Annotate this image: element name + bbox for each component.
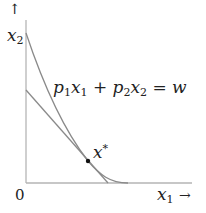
x-axis-label: x1 → [157,186,191,205]
optimum-label: x* [93,143,108,161]
budget-equation-label: p1x1 + p2x2 = w [53,79,187,98]
y-axis-arrow: ↑ [9,2,21,16]
y-axis-label: x2 [7,27,24,46]
optimum-point [86,159,90,163]
diagram-canvas [0,0,206,213]
origin-label: 0 [15,188,25,203]
